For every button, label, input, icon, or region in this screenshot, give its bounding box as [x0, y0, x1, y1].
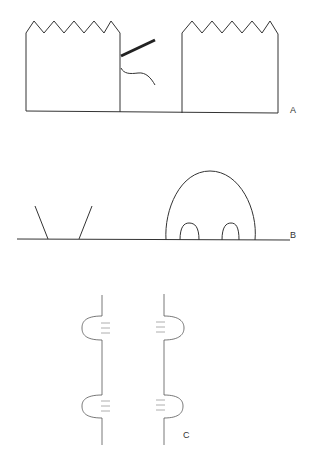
right-column [164, 294, 184, 445]
label-b: B [290, 230, 296, 240]
thick-bar [121, 40, 155, 56]
v-right-arm [79, 206, 92, 239]
label-a: A [290, 105, 296, 115]
striations-left-lower [101, 401, 110, 411]
striations-right-upper [156, 322, 165, 332]
small-arch-right [222, 223, 239, 240]
wavy-line [121, 68, 155, 85]
left-box [26, 21, 120, 112]
panel-c: C [82, 294, 190, 445]
left-column [82, 295, 102, 445]
diagram-canvas: A B [0, 0, 312, 458]
striations-right-lower [156, 400, 165, 410]
right-box [182, 21, 278, 113]
panel-a: A [26, 21, 296, 115]
dome [166, 171, 255, 240]
v-left-arm [35, 206, 48, 239]
panel-b: B [17, 171, 296, 240]
small-arch-left [180, 223, 199, 240]
baseline-a [26, 111, 278, 113]
striations-left-upper [101, 323, 110, 333]
label-c: C [183, 430, 190, 440]
baseline-b [17, 239, 290, 240]
